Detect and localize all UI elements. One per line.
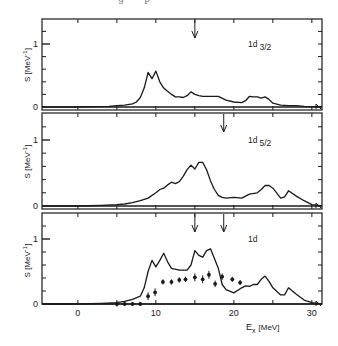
data-point: [213, 282, 217, 286]
data-point: [220, 275, 224, 279]
panel-bottom: 01S [MeV-1]1d0102030Ex[MeV]: [22, 213, 322, 334]
y-axis-label: S [MeV-1]: [22, 244, 32, 278]
x-tick-label: 20: [229, 308, 239, 318]
arrow-marker-icon: [192, 214, 198, 232]
x-tick-label: 30: [307, 308, 317, 318]
data-point: [207, 273, 211, 277]
data-point: [238, 281, 242, 285]
y-tick-label: 0: [33, 299, 38, 309]
x-axis-label: Ex[MeV]: [246, 322, 279, 334]
data-point: [230, 277, 234, 281]
y-axis-label: S [MeV-1]: [22, 48, 32, 82]
data-point: [131, 302, 135, 306]
data-point: [161, 280, 165, 284]
strength-curve: [42, 71, 322, 107]
x-tick-label: 10: [151, 308, 161, 318]
x-tick-label: 0: [75, 308, 80, 318]
y-axis-label: S [MeV-1]: [22, 145, 32, 179]
data-point: [115, 302, 119, 306]
data-point: [201, 277, 205, 281]
arrow-marker-icon: [192, 20, 198, 38]
data-point: [184, 277, 188, 281]
data-point: [193, 275, 197, 279]
arrow-marker-icon: [221, 114, 227, 132]
data-point: [146, 294, 150, 298]
data-point: [153, 290, 157, 294]
panel-label: 1d: [248, 234, 258, 244]
panel-label: 1d5/2: [248, 135, 272, 148]
y-tick-label: 1: [33, 135, 38, 145]
y-tick-label: 1: [33, 234, 38, 244]
y-tick-label: 0: [33, 102, 38, 112]
y-tick-label: 1: [33, 39, 38, 49]
plot-frame: [42, 113, 322, 209]
plot-frame: [42, 19, 322, 110]
arrow-marker-icon: [221, 214, 227, 232]
strength-curve: [42, 249, 322, 304]
data-point: [123, 302, 127, 306]
data-point: [170, 280, 174, 284]
data-point: [177, 278, 181, 282]
strength-curve: [42, 162, 322, 206]
y-tick-label: 0: [33, 201, 38, 211]
panel-top: 01S [MeV-1]1d3/2: [22, 19, 322, 112]
data-point: [138, 302, 142, 306]
panel-label: 1d3/2: [248, 39, 272, 52]
strength-function-figure: 01S [MeV-1]1d3/201S [MeV-1]1d5/201S [MeV…: [0, 0, 338, 346]
plot-frame: [42, 213, 322, 304]
panel-middle: 01S [MeV-1]1d5/2: [22, 113, 322, 211]
